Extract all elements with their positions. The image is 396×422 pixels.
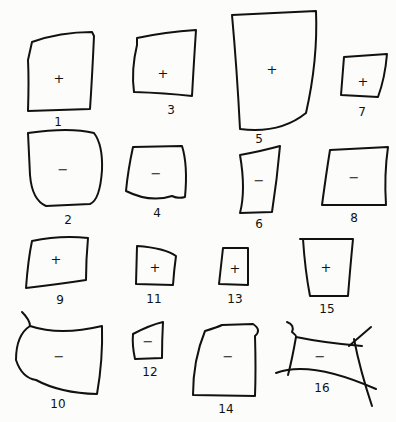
- shape-label: 3: [167, 103, 175, 117]
- sign-plus: +: [150, 260, 161, 275]
- shape-8: − 8: [322, 147, 388, 225]
- sign-minus: −: [54, 349, 65, 364]
- shape-label: 7: [358, 105, 366, 119]
- shape-9: + 9: [26, 237, 88, 307]
- shape-16: − 16: [276, 322, 376, 406]
- shape-3: + 3: [133, 30, 196, 117]
- sign-plus: +: [267, 62, 278, 77]
- shape-10: − 10: [16, 312, 102, 411]
- shape-1: + 1: [28, 32, 94, 129]
- shape-label: 5: [255, 132, 263, 146]
- shape-label: 16: [314, 381, 329, 395]
- sign-minus: −: [143, 334, 154, 349]
- shape-4: − 4: [126, 146, 186, 220]
- shape-5: + 5: [232, 11, 316, 146]
- shape-label: 1: [54, 115, 62, 129]
- shape-7: + 7: [341, 54, 387, 119]
- sign-minus: −: [315, 349, 326, 364]
- shape-label: 10: [50, 397, 65, 411]
- shape-label: 11: [146, 292, 161, 306]
- shape-11: + 11: [136, 246, 176, 306]
- sign-minus: −: [223, 349, 234, 364]
- sign-plus: +: [158, 66, 169, 81]
- shape-label: 6: [255, 217, 263, 231]
- sign-plus: +: [321, 260, 332, 275]
- shapes-diagram: + 1 + 3 + 5 + 7 − 2 − 4 − 6 − 8: [0, 0, 396, 422]
- shape-15: + 15: [300, 239, 353, 316]
- shape-label: 12: [142, 365, 157, 379]
- shape-label: 8: [350, 211, 358, 225]
- shape-label: 15: [319, 302, 334, 316]
- shape-label: 13: [227, 292, 242, 306]
- sign-plus: +: [358, 74, 369, 89]
- shape-label: 2: [64, 213, 72, 227]
- sign-plus: +: [51, 252, 62, 267]
- shape-label: 14: [218, 402, 233, 416]
- sign-minus: −: [349, 170, 360, 185]
- sign-minus: −: [58, 162, 69, 177]
- shape-label: 9: [56, 293, 64, 307]
- sign-plus: +: [230, 261, 241, 276]
- shape-14: − 14: [193, 324, 258, 416]
- shape-label: 4: [153, 206, 161, 220]
- shape-2: − 2: [28, 130, 102, 227]
- sign-minus: −: [254, 173, 265, 188]
- sign-plus: +: [54, 71, 65, 86]
- shape-12: − 12: [133, 322, 163, 379]
- sign-minus: −: [151, 166, 162, 181]
- shape-13: + 13: [219, 248, 248, 306]
- shape-6: − 6: [240, 146, 280, 231]
